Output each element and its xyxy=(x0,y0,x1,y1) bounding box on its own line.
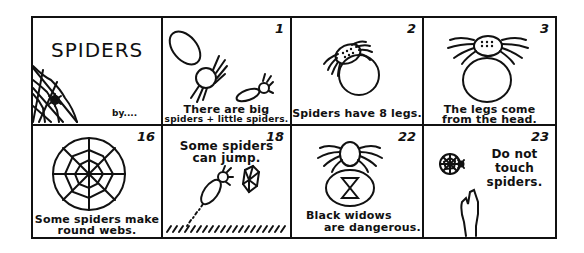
panel-22: 22 Black widows are dangerous. xyxy=(292,126,424,237)
panel-16: 16 Some spiders make round webs. xyxy=(33,126,163,237)
panel-2: 2 Spiders have 8 legs. xyxy=(292,18,424,126)
panel-3: 3 The legs come from the head. xyxy=(424,18,555,126)
panel-23: 23 Do not touch spiders. xyxy=(424,126,555,237)
cover-panel: SPIDERS by.... xyxy=(33,18,163,126)
panel-caption-line: are dangerous. xyxy=(324,222,422,233)
corner-web-icon xyxy=(33,18,161,124)
panel-caption-line: round webs. xyxy=(33,225,161,236)
hand-and-spider-icon xyxy=(424,126,555,237)
panel-18: 18 Some spiders can jump. xyxy=(163,126,292,237)
panel-caption-line: from the head. xyxy=(424,114,555,125)
panel-caption-line: spiders + little spiders. xyxy=(163,114,290,125)
panel-1: 1 There are big spiders + little spiders… xyxy=(163,18,292,126)
panel-caption-line: Black widows xyxy=(306,210,422,221)
jumping-spider-icon xyxy=(163,126,290,237)
spider-booklet-sheet: SPIDERS by.... 1 xyxy=(31,16,557,239)
panel-caption-line: Spiders have 8 legs. xyxy=(292,108,422,119)
cover-byline: by.... xyxy=(112,108,137,118)
